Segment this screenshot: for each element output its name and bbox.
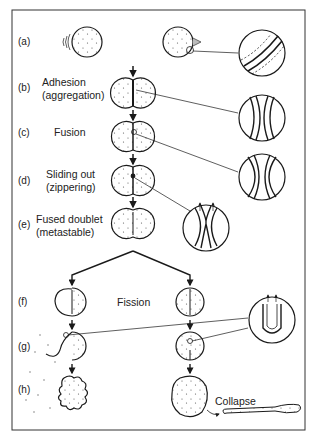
stage-a-vesicles: [63, 27, 238, 57]
inset-g-pore: [249, 295, 295, 343]
label-aggregation: (aggregation): [42, 89, 104, 101]
stage-c-fusion: [111, 122, 238, 173]
stage-h-right-vesicle: [172, 376, 219, 416]
stage-b-adhesion: [111, 78, 238, 113]
inset-b-adhesion: [239, 95, 285, 141]
inset-a-parallel-bilayers: [239, 30, 285, 76]
label-sliding-out: Sliding out: [46, 168, 95, 180]
stage-f-left-rupture: [55, 288, 86, 316]
stage-g-right-fission: [176, 328, 248, 360]
inset-c-hemifusion: [239, 154, 285, 200]
stage-g-left-lysis: [46, 318, 248, 360]
label-fission: Fission: [117, 296, 150, 308]
label-metastable: (metastable): [36, 226, 94, 238]
tag-d: (d): [18, 175, 30, 186]
branch-arrows: [72, 251, 190, 285]
tag-f: (f): [18, 296, 27, 307]
stage-tags: (a) (b) (c) (d) (e) (f) (g) (h): [18, 36, 30, 395]
tag-a: (a): [18, 36, 30, 47]
stage-f-right-doublet: [176, 288, 204, 316]
label-adhesion: Adhesion: [42, 76, 86, 88]
label-fused-doublet: Fused doublet: [36, 213, 103, 225]
label-fusion: Fusion: [54, 126, 86, 138]
stage-h-left-ghost: [59, 376, 88, 410]
tag-c: (c): [18, 127, 30, 138]
membrane-fusion-diagram: (a) (b) (c) (d) (e) (f) (g) (h) Adhesion…: [0, 0, 316, 441]
tag-e: (e): [18, 219, 30, 230]
label-collapse: Collapse: [215, 395, 256, 407]
tag-h: (h): [18, 384, 30, 395]
label-zippering: (zippering): [46, 181, 96, 193]
inset-d-zippering: [183, 203, 229, 251]
tag-b: (b): [18, 82, 30, 93]
stage-e-fused-doublet: [111, 209, 154, 239]
tag-g: (g): [18, 341, 30, 352]
